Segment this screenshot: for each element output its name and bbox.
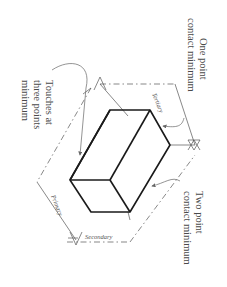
three-point-leader-b	[80, 88, 86, 155]
one-point-leader	[163, 118, 184, 127]
svg-text:minimum: minimum	[20, 80, 31, 121]
one-point-callout: One point contact minimum	[186, 18, 209, 92]
svg-text:Two point: Two point	[194, 191, 205, 234]
three-points-callout: Touches at three points minimum	[20, 80, 55, 129]
contact-point-marker	[94, 77, 106, 90]
tertiary-label: Tertiary	[151, 92, 165, 114]
two-point-callout: Two point contact minimum	[182, 191, 205, 265]
svg-text:contact minimum: contact minimum	[182, 191, 193, 265]
datum-reference-frame-diagram: Tertiary Primary Secondary One point con…	[0, 0, 227, 287]
secondary-label: Secondary	[85, 233, 113, 240]
part-block	[70, 110, 170, 212]
three-point-leader-a	[52, 64, 87, 88]
svg-text:One point: One point	[198, 38, 209, 80]
svg-text:Touches at: Touches at	[44, 80, 55, 125]
tertiary-plane	[94, 77, 200, 150]
secondary-plane	[67, 155, 195, 245]
svg-text:contact minimum: contact minimum	[186, 18, 197, 92]
leader-arrows	[52, 64, 184, 186]
svg-text:three points: three points	[32, 80, 43, 129]
